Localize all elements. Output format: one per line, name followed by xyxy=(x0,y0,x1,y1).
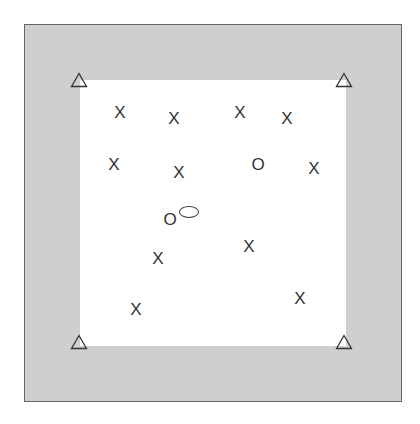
triangle-icon xyxy=(70,72,88,92)
x-mark: X xyxy=(114,104,125,121)
x-mark: X xyxy=(108,156,119,173)
o-mark: O xyxy=(163,211,176,228)
diagram-canvas: XXXXXXXXXXXOO xyxy=(0,0,420,424)
o-mark: O xyxy=(251,156,264,173)
triangle-icon xyxy=(335,72,353,92)
triangle-icon xyxy=(70,334,88,354)
triangle-icon xyxy=(335,334,353,354)
ellipse-icon xyxy=(179,206,199,218)
x-mark: X xyxy=(243,238,254,255)
x-mark: X xyxy=(173,164,184,181)
x-mark: X xyxy=(234,104,245,121)
x-mark: X xyxy=(294,290,305,307)
x-mark: X xyxy=(308,160,319,177)
x-mark: X xyxy=(281,110,292,127)
x-mark: X xyxy=(152,250,163,267)
x-mark: X xyxy=(168,110,179,127)
x-mark: X xyxy=(130,301,141,318)
